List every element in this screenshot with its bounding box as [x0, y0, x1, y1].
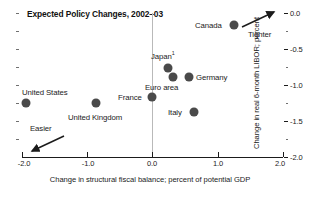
data-point-euro-area [169, 73, 178, 82]
y-axis-minor-tick-1 [286, 67, 288, 68]
y-axis-tick-4 [284, 157, 288, 158]
data-label-united-kingdom: United Kingdom [68, 113, 122, 122]
y-axis-tick-label-2: -1.0 [290, 81, 303, 90]
x-axis-tick-0 [22, 152, 23, 157]
data-point-italy [190, 108, 199, 117]
y-axis-tick-3 [284, 121, 288, 122]
x-axis-tick-label-3: 1.0 [213, 159, 223, 168]
chart-title: Expected Policy Changes, 2002–03 [27, 9, 163, 19]
annotation-easier-label: Easier [30, 124, 52, 133]
y-axis-tick-label-4: -2.0 [290, 153, 303, 162]
y-axis-minor-tick-2 [286, 103, 288, 104]
left-edge-tick-7 [16, 139, 19, 140]
y-axis-tick-label-1: -0.5 [290, 45, 303, 54]
data-point-united-states [22, 99, 31, 108]
data-point-france [148, 93, 157, 102]
data-point-canada [230, 21, 239, 30]
data-label-united-states: United States [22, 88, 68, 97]
x-axis-line [22, 157, 283, 158]
data-point-germany [185, 73, 194, 82]
y-axis-tick-label-0: 0.0 [290, 9, 300, 18]
x-axis-tick-1 [87, 152, 88, 157]
x-axis-tick-2 [152, 152, 153, 157]
data-label-euro-area: Euro area [145, 83, 178, 92]
left-edge-tick-5 [16, 103, 19, 104]
y-axis-tick-0 [284, 13, 288, 14]
y-axis-tick-1 [284, 49, 288, 50]
easier-arrow-icon [26, 134, 68, 156]
data-label-japan: Japan1 [151, 50, 175, 61]
left-edge-tick-2 [16, 49, 19, 50]
scatter-chart-figure: Expected Policy Changes, 2002–03 -2.0 -1… [0, 0, 331, 198]
data-label-france: France [118, 93, 142, 102]
data-label-italy: Italy [168, 108, 182, 117]
tighter-arrow-icon [240, 8, 282, 30]
x-axis-tick-3 [218, 152, 219, 157]
x-axis-tick-label-1: -1.0 [82, 159, 95, 168]
data-label-japan-text: Japan [151, 52, 172, 61]
data-label-japan-footnote: 1 [172, 50, 175, 56]
data-label-germany: Germany [196, 73, 227, 82]
y-axis-tick-2 [284, 85, 288, 86]
left-edge-tick-1 [16, 31, 19, 32]
left-edge-tick-4 [16, 85, 19, 86]
y-axis-minor-tick-0 [286, 31, 288, 32]
y-axis-minor-tick-3 [286, 139, 288, 140]
left-edge-tick-0 [16, 13, 19, 14]
x-axis-tick-label-0: -2.0 [18, 159, 31, 168]
y-axis-title: Change in real 6-month LIBOR; percent [252, 8, 261, 158]
x-axis-tick-label-4: 2.0 [275, 159, 285, 168]
data-point-japan [164, 64, 173, 73]
x-axis-tick-label-2: 0.0 [147, 159, 157, 168]
left-edge-tick-6 [16, 121, 19, 122]
data-point-united-kingdom [92, 99, 101, 108]
data-label-canada: Canada [195, 21, 222, 30]
left-edge-tick-3 [16, 67, 19, 68]
y-axis-tick-label-3: -1.5 [290, 117, 303, 126]
x-axis-title: Change in structural fiscal balance; per… [0, 175, 300, 184]
